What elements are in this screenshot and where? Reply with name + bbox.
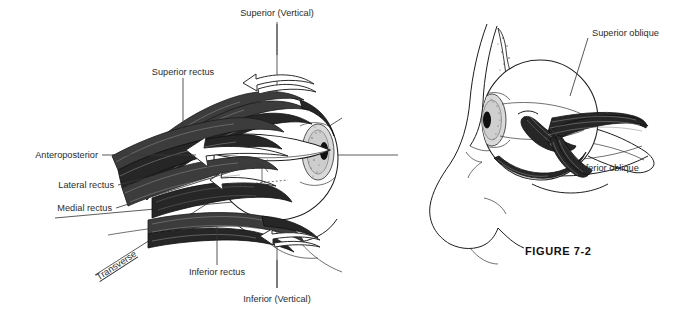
label-superior-oblique: Superior oblique: [592, 28, 659, 38]
label-inferior-rectus: Inferior rectus: [189, 267, 246, 277]
label-medial-rectus: Medial rectus: [57, 203, 112, 213]
label-inferior-vertical: Inferior (Vertical): [243, 294, 310, 304]
label-inferior-oblique: Inferior oblique: [578, 163, 639, 173]
label-superior-rectus: Superior rectus: [152, 67, 215, 77]
label-lateral-rectus: Lateral rectus: [58, 180, 114, 190]
figure-caption: FIGURE 7-2: [525, 245, 592, 257]
label-anteroposterior: Anteroposterior: [35, 150, 98, 160]
pupil-right: [483, 112, 491, 129]
figure-canvas: Superior (Vertical) Superior rectus Ante…: [0, 0, 679, 316]
label-superior-vertical: Superior (Vertical): [240, 8, 314, 18]
